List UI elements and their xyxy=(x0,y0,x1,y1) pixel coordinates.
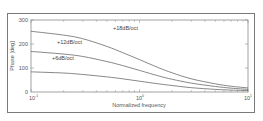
y-tick-300: 300 xyxy=(19,17,28,23)
x-axis-label: Normalized frequency xyxy=(112,102,166,108)
phase-chart: 0 100 200 300 10 -1 10 0 10 1 Normalized… xyxy=(0,0,263,121)
label-6db-oct: +6dB/oct xyxy=(52,55,74,61)
y-tick-0: 0 xyxy=(25,89,28,95)
svg-text:0: 0 xyxy=(142,94,144,98)
label-12db-oct: +12dB/oct xyxy=(57,39,82,45)
curve-6db-oct xyxy=(31,72,248,91)
y-axis-label: Phase [deg] xyxy=(9,41,15,71)
x-tick-1: 10 0 xyxy=(136,94,144,101)
y-tick-100: 100 xyxy=(19,65,28,71)
svg-text:1: 1 xyxy=(250,94,252,98)
x-tick-10: 10 1 xyxy=(244,94,252,101)
svg-text:-1: -1 xyxy=(35,94,38,98)
y-tick-200: 200 xyxy=(19,41,28,47)
x-tick-0.1: 10 -1 xyxy=(29,94,38,101)
label-18db-oct: +18dB/oct xyxy=(113,25,138,31)
